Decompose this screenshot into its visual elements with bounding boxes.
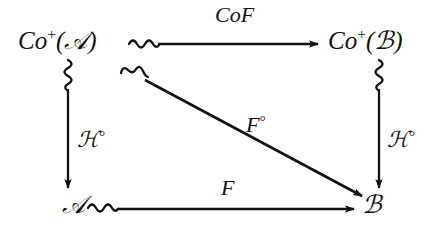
arrow-label-diagonal-degree: ° bbox=[259, 112, 265, 129]
arrow-label-left-degree: ° bbox=[99, 127, 105, 144]
arrow-bottom-squiggle-tail bbox=[88, 205, 118, 212]
node-top-left-prefix: Co bbox=[18, 27, 47, 54]
arrow-label-left-base: ℋ bbox=[77, 127, 99, 152]
arrow-label-bottom-f: F bbox=[221, 177, 234, 199]
node-top-left-close-paren: ) bbox=[88, 27, 96, 54]
node-top-left-object: 𝒜 bbox=[64, 26, 88, 55]
arrow-diagonal-shaft bbox=[145, 80, 362, 196]
arrow-left-squiggle-tail bbox=[65, 60, 72, 90]
node-top-left-superscript: + bbox=[47, 25, 56, 42]
arrow-label-right-h-circ: ℋ° bbox=[387, 128, 415, 151]
arrow-left-h-circ bbox=[65, 60, 72, 188]
node-top-right-object: ℬ bbox=[374, 26, 394, 55]
arrow-top-cof bbox=[129, 41, 318, 48]
commutative-diagram: Co+(𝒜) Co+(ℬ) 𝒜 ℬ CoF F ℋ° ℋ° F° bbox=[0, 0, 437, 226]
arrow-diagonal-squiggle-tail bbox=[121, 67, 148, 77]
node-top-right: Co+(ℬ) bbox=[328, 26, 403, 53]
arrow-label-right-base: ℋ bbox=[387, 127, 409, 152]
arrow-diagonal-f-circ bbox=[121, 67, 362, 196]
arrow-right-h-circ bbox=[376, 60, 383, 188]
node-top-right-superscript: + bbox=[357, 25, 366, 42]
arrow-bottom-f bbox=[88, 205, 354, 212]
node-bottom-left: 𝒜 bbox=[62, 192, 86, 217]
node-top-right-close-paren: ) bbox=[394, 27, 402, 54]
arrow-label-diagonal-f-circ: F° bbox=[246, 113, 266, 136]
node-top-right-prefix: Co bbox=[328, 27, 357, 54]
arrow-label-right-degree: ° bbox=[409, 127, 415, 144]
arrow-right-squiggle-tail bbox=[376, 60, 383, 90]
arrow-label-left-h-circ: ℋ° bbox=[77, 128, 105, 151]
arrow-top-squiggle-tail bbox=[129, 41, 159, 48]
node-bottom-right: ℬ bbox=[362, 192, 382, 217]
arrow-label-diagonal-base: F bbox=[246, 112, 259, 137]
arrow-label-top-cof: CoF bbox=[215, 4, 254, 26]
node-top-left: Co+(𝒜) bbox=[18, 26, 97, 53]
